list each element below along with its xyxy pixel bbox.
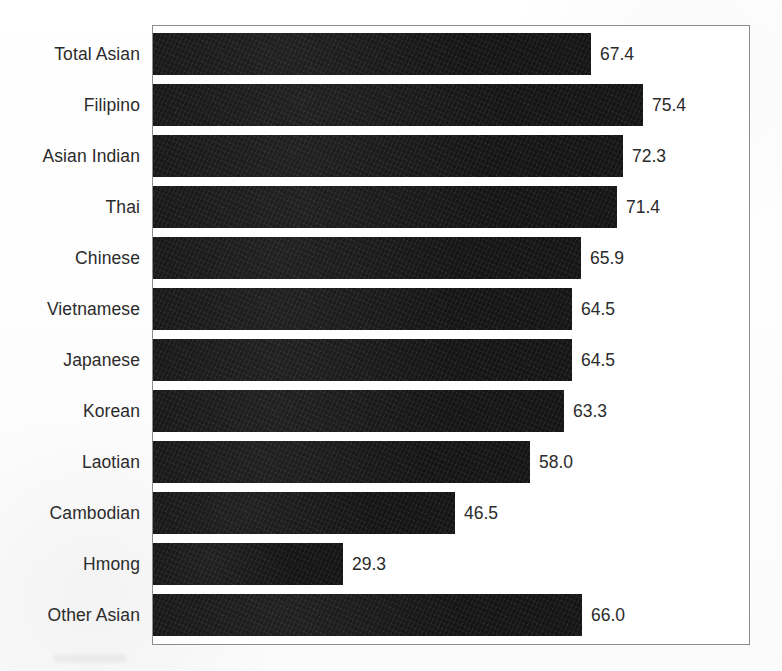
bar bbox=[153, 135, 623, 177]
category-label: Thai bbox=[106, 186, 140, 228]
bar-value-label: 65.9 bbox=[581, 237, 624, 279]
bar bbox=[153, 339, 572, 381]
bar-value-label: 67.4 bbox=[591, 33, 634, 75]
category-label: Asian Indian bbox=[42, 135, 140, 177]
bar bbox=[153, 441, 530, 483]
bar-row: Hmong29.3 bbox=[0, 543, 782, 585]
category-label: Cambodian bbox=[50, 492, 140, 534]
bar bbox=[153, 543, 343, 585]
bar-value-label: 29.3 bbox=[343, 543, 386, 585]
category-label: Korean bbox=[83, 390, 140, 432]
bar-row: Chinese65.9 bbox=[0, 237, 782, 279]
bar bbox=[153, 594, 582, 636]
bar-rows-container: Total Asian67.4Filipino75.4Asian Indian7… bbox=[0, 25, 782, 645]
scan-artifact bbox=[54, 655, 126, 662]
bar-row: Korean63.3 bbox=[0, 390, 782, 432]
category-label: Other Asian bbox=[47, 594, 140, 636]
bar-row: Japanese64.5 bbox=[0, 339, 782, 381]
category-label: Filipino bbox=[84, 84, 140, 126]
bar-value-label: 46.5 bbox=[455, 492, 498, 534]
bar-row: Laotian58.0 bbox=[0, 441, 782, 483]
bar-value-label: 66.0 bbox=[582, 594, 625, 636]
bar-value-label: 71.4 bbox=[617, 186, 660, 228]
bar-row: Asian Indian72.3 bbox=[0, 135, 782, 177]
category-label: Japanese bbox=[63, 339, 140, 381]
bar-row: Thai71.4 bbox=[0, 186, 782, 228]
bar bbox=[153, 186, 617, 228]
bar bbox=[153, 237, 581, 279]
bar-value-label: 75.4 bbox=[643, 84, 686, 126]
bar-value-label: 64.5 bbox=[572, 339, 615, 381]
bar-value-label: 58.0 bbox=[530, 441, 573, 483]
bar bbox=[153, 33, 591, 75]
bar-row: Cambodian46.5 bbox=[0, 492, 782, 534]
bar bbox=[153, 390, 564, 432]
bar-value-label: 63.3 bbox=[564, 390, 607, 432]
category-label: Chinese bbox=[75, 237, 140, 279]
bar-value-label: 64.5 bbox=[572, 288, 615, 330]
bar-chart-figure: Total Asian67.4Filipino75.4Asian Indian7… bbox=[0, 0, 782, 671]
bar-value-label: 72.3 bbox=[623, 135, 666, 177]
bar-row: Filipino75.4 bbox=[0, 84, 782, 126]
category-label: Laotian bbox=[82, 441, 140, 483]
bar-row: Vietnamese64.5 bbox=[0, 288, 782, 330]
bar bbox=[153, 288, 572, 330]
bar-row: Other Asian66.0 bbox=[0, 594, 782, 636]
bar bbox=[153, 492, 455, 534]
category-label: Total Asian bbox=[54, 33, 140, 75]
category-label: Hmong bbox=[83, 543, 140, 585]
bar bbox=[153, 84, 643, 126]
category-label: Vietnamese bbox=[47, 288, 140, 330]
bar-row: Total Asian67.4 bbox=[0, 33, 782, 75]
